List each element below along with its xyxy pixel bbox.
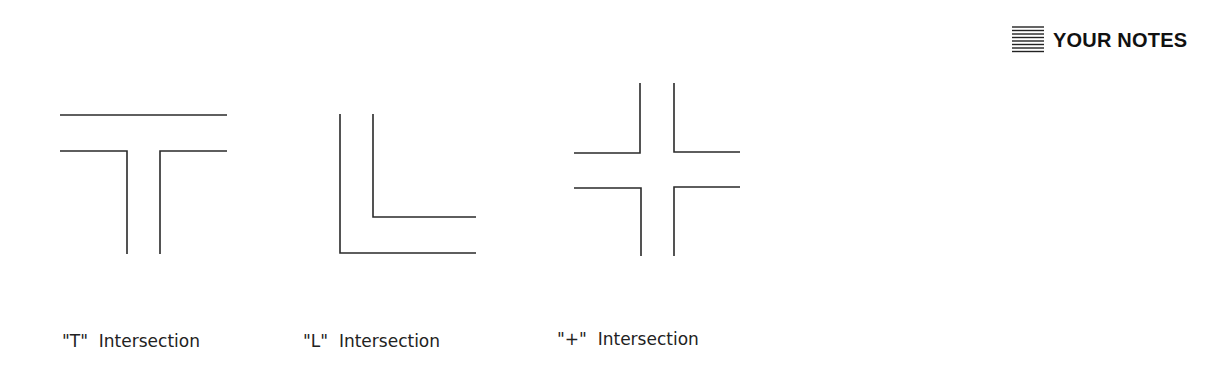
plus-intersection-shape	[574, 83, 740, 256]
plus-intersection-label: "+" Intersection	[557, 329, 699, 349]
t-intersection-shape	[60, 115, 227, 254]
l-intersection-label: "L" Intersection	[303, 331, 440, 351]
t-intersection-label: "T" Intersection	[62, 331, 200, 351]
l-intersection-shape	[340, 114, 476, 253]
